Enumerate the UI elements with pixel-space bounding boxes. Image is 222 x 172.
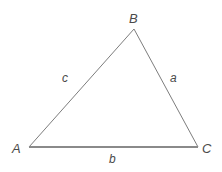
side-label-c: c: [62, 72, 68, 84]
vertex-label-c: C: [202, 142, 211, 155]
triangle-side-c-line: [29, 29, 134, 147]
side-label-a: a: [170, 72, 177, 84]
vertex-label-a: A: [12, 142, 21, 155]
side-label-b: b: [109, 153, 116, 165]
triangle-shape: [0, 0, 222, 172]
triangle-side-a-line: [134, 29, 198, 147]
triangle-diagram: A B C a b c: [0, 0, 222, 172]
vertex-label-b: B: [129, 12, 138, 25]
